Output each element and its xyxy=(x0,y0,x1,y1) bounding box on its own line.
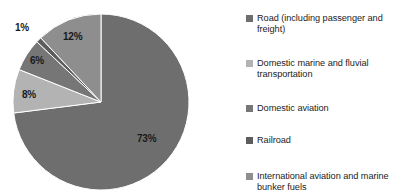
legend-swatch-railroad xyxy=(246,137,253,144)
legend-item-road[interactable]: Road (including passenger and freight) xyxy=(246,13,398,36)
legend-item-domestic-marine[interactable]: Domestic marine and fluvial transportati… xyxy=(246,58,398,81)
legend-swatch-road xyxy=(246,15,253,22)
legend-item-international-aviation[interactable]: International aviation and marine bunker… xyxy=(246,171,398,194)
legend-swatch-domestic-aviation xyxy=(246,105,253,112)
legend-label-international-aviation: International aviation and marine bunker… xyxy=(257,171,398,194)
pie-label-international-aviation: 12% xyxy=(63,31,82,42)
legend-label-domestic-marine: Domestic marine and fluvial transportati… xyxy=(257,58,398,81)
legend-label-domestic-aviation: Domestic aviation xyxy=(257,103,329,114)
pie-plot-area: 73% 8% 6% 1% 12% xyxy=(0,0,232,196)
pie-label-railroad: 1% xyxy=(15,22,29,33)
legend-item-railroad[interactable]: Railroad xyxy=(246,135,398,146)
legend-label-road: Road (including passenger and freight) xyxy=(257,13,398,36)
pie-label-road: 73% xyxy=(137,133,156,144)
pie-label-domestic-aviation: 6% xyxy=(30,55,44,66)
legend-swatch-international-aviation xyxy=(246,173,253,180)
legend-item-domestic-aviation[interactable]: Domestic aviation xyxy=(246,103,398,114)
pie-slices xyxy=(13,14,189,190)
pie-label-domestic-marine: 8% xyxy=(22,89,36,100)
pie-chart-figure: 73% 8% 6% 1% 12% Road (including passeng… xyxy=(0,0,399,196)
chart-legend: Road (including passenger and freight) D… xyxy=(246,13,398,193)
legend-label-railroad: Railroad xyxy=(257,135,291,146)
legend-swatch-domestic-marine xyxy=(246,60,253,67)
